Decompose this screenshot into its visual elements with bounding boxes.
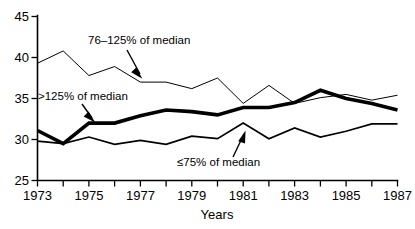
annotation-label-gt-125: >125% of median [38, 90, 128, 102]
y-tick-label-35: 35 [15, 91, 29, 106]
arrowhead-icon [238, 130, 245, 143]
x-tick-label-1977: 1977 [126, 188, 155, 203]
y-axis-ticks [32, 17, 38, 181]
arrowhead-icon [84, 112, 96, 123]
x-tick-label-1983: 1983 [280, 188, 309, 203]
annotation-gt-125: >125% of median [38, 90, 128, 123]
x-tick-label-1985: 1985 [332, 188, 361, 203]
x-tick-label-1987: 1987 [383, 188, 412, 203]
y-tick-label-25: 25 [15, 173, 29, 188]
x-tick-label-1981: 1981 [229, 188, 258, 203]
y-tick-label-45: 45 [15, 9, 29, 24]
annotation-label-76-125: 76–125% of median [88, 34, 190, 46]
y-tick-label-30: 30 [15, 132, 29, 147]
x-tick-label-1975: 1975 [74, 188, 103, 203]
x-axis-title: Years [201, 207, 234, 222]
line-chart: 25 30 35 40 45 1973 1975 1977 1979 19 [0, 0, 415, 229]
annotation-lte-75: ≤75% of median [177, 130, 260, 168]
annotation-76-125: 76–125% of median [88, 34, 190, 79]
annotation-label-lte-75: ≤75% of median [177, 156, 260, 168]
x-axis-ticks [38, 181, 398, 187]
chart-canvas: 25 30 35 40 45 1973 1975 1977 1979 19 [0, 0, 415, 229]
x-tick-label-1979: 1979 [177, 188, 206, 203]
x-tick-label-1973: 1973 [23, 188, 52, 203]
y-tick-label-40: 40 [15, 50, 29, 65]
series-line-lte-75-of-median [38, 123, 398, 144]
